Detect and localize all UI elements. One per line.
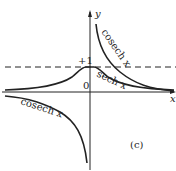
cosech-lower-label: cosech x [19, 95, 64, 119]
origin-label: 0 [83, 80, 89, 91]
y-axis-label: y [94, 8, 101, 19]
plus-one-label: +1 [78, 55, 93, 66]
sech-label: sech x [95, 68, 129, 92]
panel-label: (c) [130, 139, 144, 150]
cosech-upper-label: cosech x [99, 27, 133, 69]
plot: y x 0 +1 cosech x sech x cosech x (c) [0, 0, 176, 171]
y-axis-arrow-icon [88, 10, 92, 17]
x-axis-label: x [170, 93, 176, 104]
